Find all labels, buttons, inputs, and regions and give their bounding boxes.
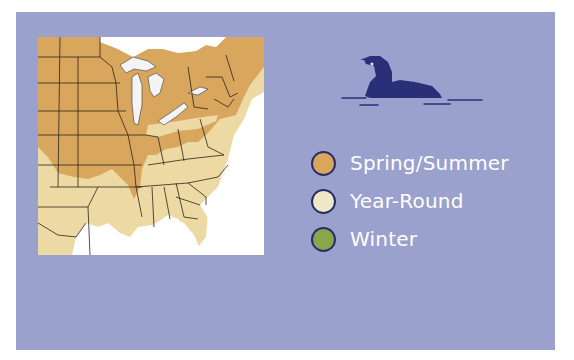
- loon-icon: [340, 52, 485, 110]
- legend-item-year-round: Year-Round: [311, 182, 509, 220]
- range-map: [38, 37, 264, 255]
- legend: Spring/Summer Year-Round Winter: [311, 144, 509, 258]
- spring-summer-swatch-icon: [311, 151, 336, 176]
- legend-label: Winter: [350, 229, 417, 249]
- winter-swatch-icon: [311, 227, 336, 252]
- year-round-swatch-icon: [311, 189, 336, 214]
- legend-label: Spring/Summer: [350, 153, 509, 173]
- legend-label: Year-Round: [350, 191, 464, 211]
- legend-item-winter: Winter: [311, 220, 509, 258]
- legend-item-spring-summer: Spring/Summer: [311, 144, 509, 182]
